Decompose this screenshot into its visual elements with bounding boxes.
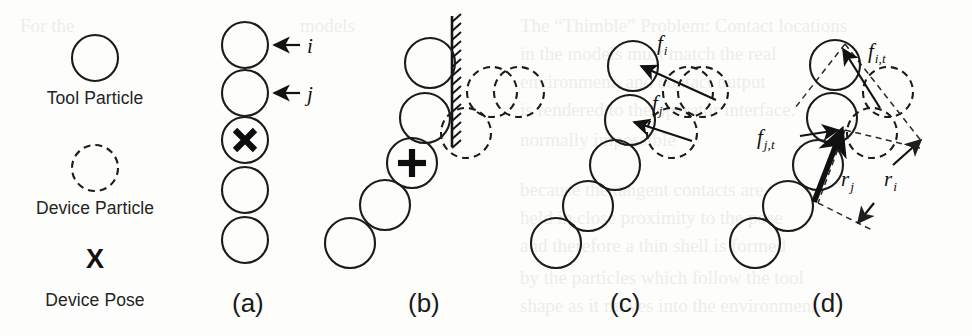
panel-label-b: (b) <box>408 288 440 318</box>
svg-text:and therefore a thin shell is: and therefore a thin shell is formed <box>520 235 786 256</box>
particle-contact-model-figure: The “Thimble” Problem: Contact locations… <box>0 0 972 336</box>
svg-text:For the: For the <box>20 15 74 36</box>
legend-label-device-particle: Device Particle <box>36 198 154 218</box>
index-label-i: i <box>307 34 313 58</box>
svg-text:The “Thimble” Problem: Contact: The “Thimble” Problem: Contact locations <box>520 15 847 36</box>
svg-text:because the tangent contacts a: because the tangent contacts are <box>520 179 764 200</box>
svg-text:by the particles which follow: by the particles which follow the tool <box>520 267 804 288</box>
legend-label-device-pose: Device Pose <box>45 290 144 310</box>
panel-label-d: (d) <box>812 288 844 318</box>
panel-label-a: (a) <box>232 288 264 318</box>
svg-text:shape as it moves into the env: shape as it moves into the environment. <box>520 295 821 316</box>
svg-text:models: models <box>300 15 355 36</box>
panel-label-c: (c) <box>610 288 640 318</box>
figure-root: The “Thimble” Problem: Contact locations… <box>0 0 972 336</box>
device-pose-glyph-icon: X <box>86 244 104 274</box>
legend-label-tool-particle: Tool Particle <box>47 88 144 108</box>
